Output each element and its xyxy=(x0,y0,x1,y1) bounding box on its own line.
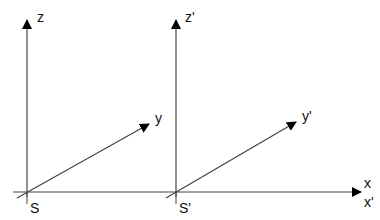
origin-s-label: S xyxy=(30,201,39,215)
x-label: x xyxy=(364,176,371,190)
diagram-canvas: z z' y y' x x' S S' xyxy=(0,0,380,220)
y-prime-axis xyxy=(166,122,296,198)
origin-s-prime-label: S' xyxy=(179,201,191,215)
x-prime-label: x' xyxy=(364,195,374,209)
y-prime-label: y' xyxy=(302,109,312,123)
axes-drawing xyxy=(0,0,380,220)
y-axis xyxy=(17,124,149,198)
z-prime-label: z' xyxy=(185,10,195,24)
y-label: y xyxy=(155,111,162,125)
z-label: z xyxy=(37,10,44,24)
